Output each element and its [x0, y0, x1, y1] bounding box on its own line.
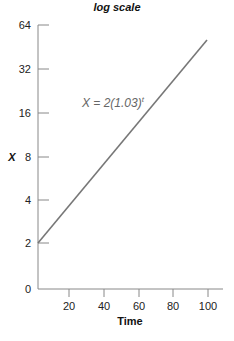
y-tick-label: 4	[25, 194, 31, 206]
x-tick-label: 80	[167, 300, 179, 312]
y-tick-label: 8	[25, 151, 31, 163]
equation-label: X = 2(1.03)t	[81, 95, 145, 110]
y-tick-label: 16	[19, 107, 31, 119]
y-tick-label: 0	[25, 283, 31, 295]
equation-superscript: t	[142, 95, 145, 104]
y-tick-label: 2	[25, 237, 31, 249]
equation-main: X = 2(1.03)	[81, 96, 142, 110]
x-ticks	[69, 289, 208, 297]
y-tick-label: 32	[19, 63, 31, 75]
x-axis-label: Time	[117, 315, 142, 327]
growth-line	[38, 40, 207, 243]
x-tick-label: 60	[133, 300, 145, 312]
y-axis-label: X	[7, 151, 16, 163]
chart-canvas: 64 32 16 8 4 2 0 20 40 60 80 100 Time X …	[0, 0, 234, 341]
x-tick-label: 20	[63, 300, 75, 312]
y-tick-label: 64	[19, 19, 31, 31]
x-tick-label: 40	[98, 300, 110, 312]
x-tick-label: 100	[199, 300, 217, 312]
y-ticks	[38, 25, 49, 243]
